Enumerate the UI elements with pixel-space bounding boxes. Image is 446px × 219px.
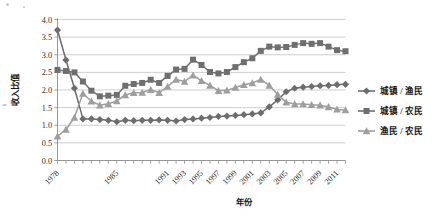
data-point-marker (55, 67, 61, 73)
series-2 (55, 40, 349, 99)
data-point-marker (257, 76, 265, 83)
data-point-marker (343, 48, 349, 54)
data-point-marker (54, 26, 61, 33)
scan-artifact-2 (23, 6, 25, 8)
data-point-marker (139, 117, 146, 124)
y-tick-label: 1.5 (42, 104, 52, 113)
data-point-marker (122, 117, 129, 124)
y-tick-label: 3.0 (42, 51, 52, 60)
data-point-marker (79, 90, 87, 97)
legend-item-3[interactable]: 渔民 / 农民 (358, 125, 423, 136)
data-point-marker (258, 48, 264, 54)
data-point-marker (96, 116, 103, 123)
data-point-marker (181, 116, 188, 123)
data-point-marker (207, 69, 213, 75)
scan-artifact-1 (6, 3, 9, 6)
data-point-marker (62, 56, 69, 63)
data-point-marker (215, 70, 221, 76)
x-tick-label: 1985 (102, 169, 120, 187)
data-point-marker (283, 44, 289, 50)
data-point-marker (308, 83, 315, 90)
data-point-marker (80, 79, 86, 85)
data-point-marker (317, 40, 323, 46)
legend: 城镇 / 渔民城镇 / 农民渔民 / 农民 (358, 85, 423, 136)
x-tick-label: 1997 (204, 169, 222, 187)
data-point-marker (147, 117, 154, 124)
data-point-marker (364, 108, 370, 114)
x-tick-label: 2005 (272, 169, 290, 187)
data-point-marker (215, 113, 222, 120)
data-point-marker (198, 77, 206, 84)
data-point-marker (189, 115, 196, 122)
data-point-marker (97, 93, 103, 99)
legend-item-label: 城镇 / 渔民 (380, 85, 423, 96)
x-tick-label: 1993 (170, 169, 188, 187)
data-point-marker (198, 115, 205, 122)
x-axis-title: 年份 (236, 197, 253, 207)
data-point-marker (139, 80, 145, 86)
data-point-marker (291, 85, 298, 92)
data-point-marker (249, 55, 255, 61)
data-point-marker (71, 114, 79, 121)
data-point-marker (275, 44, 281, 50)
data-point-marker (130, 117, 137, 124)
x-tick-label: 2007 (289, 169, 307, 187)
line-chart: 0.00.51.01.52.02.53.03.54.0收入比值197819851… (0, 0, 446, 219)
y-tick-label: 0.5 (42, 139, 52, 148)
data-point-marker (131, 81, 137, 87)
data-point-marker (182, 66, 188, 72)
data-point-marker (199, 62, 205, 68)
data-point-marker (105, 93, 111, 99)
scan-artifact-3 (2, 104, 7, 106)
data-point-marker (173, 67, 179, 73)
data-point-marker (156, 80, 162, 86)
data-point-marker (223, 112, 230, 119)
data-point-marker (326, 44, 332, 50)
x-axis: 1978198519911993199519971999200120032005… (43, 161, 346, 208)
data-point-marker (172, 76, 180, 83)
y-tick-label: 2.5 (42, 68, 52, 77)
y-axis: 0.00.51.01.52.02.53.03.54.0收入比值 (10, 16, 58, 166)
x-tick-label: 2003 (255, 169, 273, 187)
chart-container: 0.00.51.01.52.02.53.03.54.0收入比值197819851… (0, 0, 446, 219)
data-point-marker (113, 118, 120, 125)
y-tick-label: 3.5 (42, 33, 52, 42)
y-tick-label: 4.0 (42, 16, 52, 25)
data-point-marker (334, 47, 340, 53)
x-tick-label: 2011 (323, 169, 341, 187)
data-point-marker (147, 86, 155, 93)
data-point-marker (63, 68, 69, 74)
x-tick-label: 1999 (221, 169, 239, 187)
data-point-marker (88, 88, 94, 94)
data-point-marker (363, 87, 370, 94)
data-point-marker (190, 57, 196, 63)
data-point-marker (241, 59, 247, 65)
data-point-marker (165, 73, 171, 79)
y-tick-label: 1.0 (42, 121, 52, 130)
data-point-marker (105, 117, 112, 124)
legend-item-1[interactable]: 城镇 / 渔民 (358, 85, 423, 96)
data-point-marker (224, 69, 230, 75)
data-point-marker (333, 81, 340, 88)
data-point-marker (148, 77, 154, 83)
y-tick-label: 0.0 (42, 157, 52, 166)
data-point-marker (325, 82, 332, 89)
y-tick-label: 2.0 (42, 86, 52, 95)
data-point-marker (206, 82, 214, 89)
data-point-marker (156, 116, 163, 123)
legend-item-2[interactable]: 城镇 / 农民 (358, 105, 423, 116)
legend-item-label: 城镇 / 农民 (380, 105, 423, 116)
x-tick-label: 1991 (153, 169, 171, 187)
data-point-marker (206, 114, 213, 121)
data-point-marker (316, 82, 323, 89)
legend-item-label: 渔民 / 农民 (380, 125, 423, 136)
data-point-marker (309, 41, 315, 47)
series-3 (54, 71, 350, 139)
data-point-marker (122, 83, 128, 89)
data-point-marker (249, 79, 257, 86)
data-point-marker (79, 115, 86, 122)
data-point-marker (88, 115, 95, 122)
x-tick-label: 2009 (306, 169, 324, 187)
y-axis-title: 收入比值 (10, 73, 20, 106)
data-point-marker (71, 85, 78, 92)
